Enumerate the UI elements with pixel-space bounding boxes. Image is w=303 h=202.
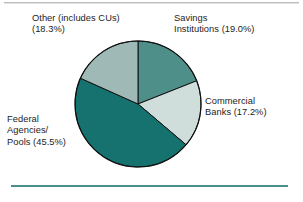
pie-slice-group	[75, 41, 201, 167]
pie-label-other: Other (includes CUs) (18.3%)	[32, 13, 120, 36]
pie-label-savings-institutions: Savings Institutions (19.0%)	[174, 13, 255, 36]
bottom-divider-rule	[11, 185, 288, 187]
pie-label-commercial-banks: Commercial Banks (17.2%)	[205, 96, 267, 119]
pie-chart-figure: Other (includes CUs) (18.3%) Savings Ins…	[0, 0, 303, 202]
pie-label-federal-agencies-pools: Federal Agencies/ Pools (45.5%)	[7, 114, 66, 148]
